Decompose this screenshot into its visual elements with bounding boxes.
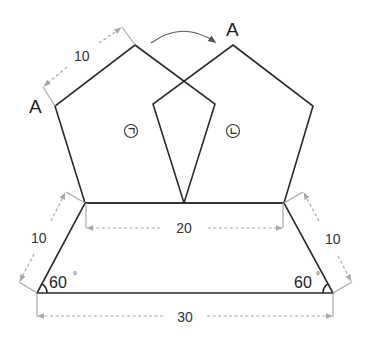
- pentagon-side-label: 10: [74, 48, 90, 64]
- angle-right-degree: °: [316, 270, 320, 281]
- trapezoid-bottom-label: 30: [177, 309, 193, 325]
- vertex-a-left-label: A: [29, 96, 42, 117]
- angle-left-arc: [42, 284, 47, 293]
- trapezoid-top-label: 20: [176, 220, 192, 236]
- vertex-a-right-label: A: [226, 19, 239, 40]
- angle-right-arc: [323, 284, 328, 293]
- trapezoid: [37, 203, 333, 293]
- angle-left-label: 60: [49, 274, 67, 291]
- pentagon-left: [55, 45, 215, 203]
- pentagon-left-marker: ㄱ: [125, 125, 138, 138]
- pentagon-side-dimension: [43, 27, 135, 106]
- angle-right-label: 60: [294, 274, 312, 291]
- trapezoid-right-leg-label: 10: [325, 231, 341, 247]
- pentagon-left-label: ㄱ: [127, 126, 136, 137]
- pentagon-right-label: ㄴ: [229, 126, 238, 137]
- geometry-figure: 10 A A ㄱ ㄴ 20 30 10 10: [0, 0, 375, 342]
- pentagon-right-marker: ㄴ: [227, 125, 240, 138]
- trapezoid-left-leg-label: 10: [31, 230, 47, 246]
- curved-arrow-right-icon: [151, 31, 215, 43]
- angle-left-degree: °: [73, 270, 77, 281]
